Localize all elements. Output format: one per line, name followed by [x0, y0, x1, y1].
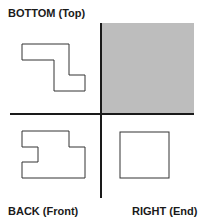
right-view-shape: [120, 132, 169, 178]
bottom-view-shape: [22, 44, 85, 91]
back-view-shape: [22, 131, 85, 178]
projection-diagram: [0, 0, 206, 220]
shaded-quadrant: [102, 23, 194, 114]
